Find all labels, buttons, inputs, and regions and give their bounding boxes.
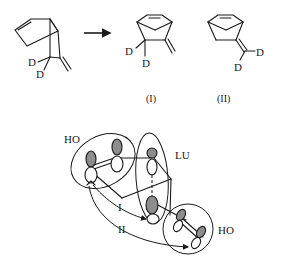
- product-two-label: (II): [217, 93, 230, 105]
- lumo-lobe-open-2: [147, 214, 159, 224]
- orbital-diagram: HO LU HO I II: [61, 122, 234, 254]
- product-two-deuterium-2: D: [234, 61, 242, 73]
- homo-bottom-label: HO: [218, 224, 234, 236]
- lumo-lobe-shaded-2: [146, 196, 158, 214]
- diagram-canvas: D D D D (I) D D: [0, 0, 281, 264]
- product-one-deuterium-2: D: [142, 57, 150, 69]
- product-one-deuterium-1: D: [125, 45, 133, 57]
- path-two-label: II: [118, 223, 126, 235]
- homo-top-lobe-open-2: [111, 156, 123, 172]
- homo-bottom-lobe-open-1: [172, 219, 185, 233]
- homo-top-label: HO: [64, 133, 80, 145]
- homo-top-lobe-shaded-2: [112, 139, 122, 155]
- product-one-label: (I): [146, 93, 156, 105]
- reactant-deuterium-1: D: [28, 56, 36, 68]
- lumo-label: LU: [175, 149, 190, 161]
- lumo-lobe-shaded-1: [147, 148, 157, 158]
- product-one-structure: D D (I): [125, 15, 175, 105]
- reactant-structure: D D: [15, 19, 71, 80]
- product-two-structure: D D (II): [208, 15, 264, 105]
- path-one-label: I: [118, 201, 122, 213]
- homo-top-lobe-shaded-1: [86, 151, 96, 167]
- lumo-lobe-open-1: [147, 159, 157, 175]
- product-two-deuterium-1: D: [256, 46, 264, 58]
- diagram-svg: D D D D (I) D D: [0, 0, 281, 264]
- reactant-deuterium-2: D: [36, 68, 44, 80]
